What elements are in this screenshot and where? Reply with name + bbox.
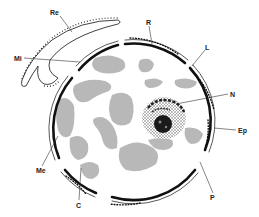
cell-diagram: Re R Mi L N Ep Me C P bbox=[0, 0, 259, 217]
label-n: N bbox=[230, 91, 235, 98]
label-mi: Mi bbox=[14, 55, 22, 62]
label-re: Re bbox=[50, 9, 59, 16]
label-p: P bbox=[210, 194, 215, 201]
label-c: C bbox=[76, 202, 81, 209]
reticulum bbox=[22, 18, 121, 86]
label-me: Me bbox=[36, 167, 46, 174]
label-ep: Ep bbox=[238, 127, 247, 135]
label-l: L bbox=[205, 44, 210, 51]
label-r: R bbox=[146, 19, 151, 26]
